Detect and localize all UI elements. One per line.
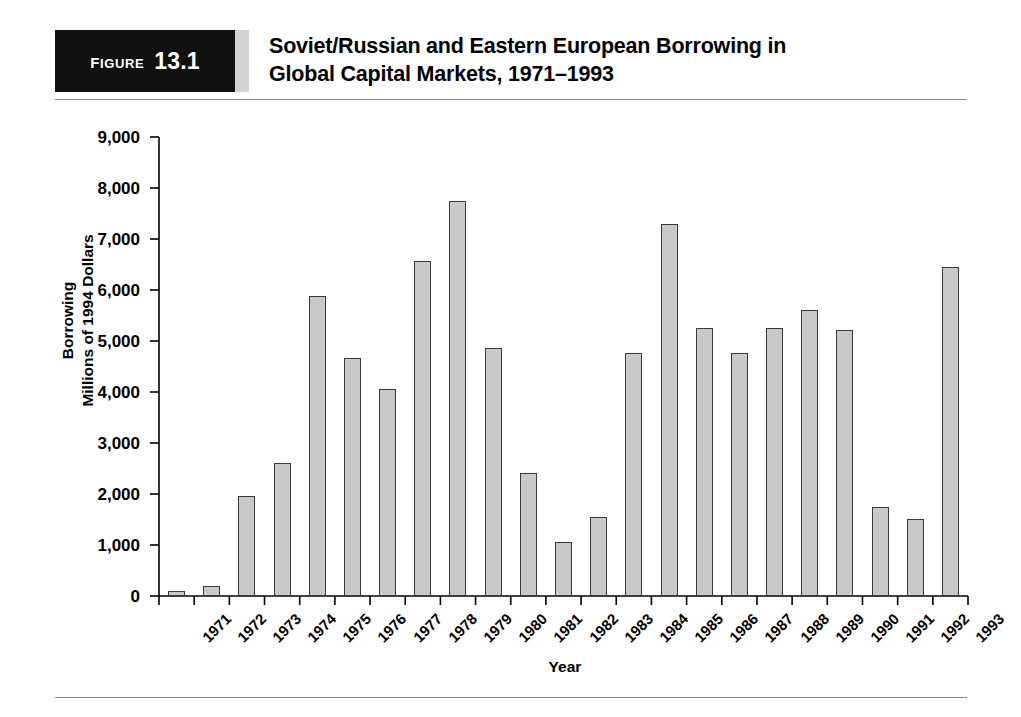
y-tick-label: 5,000 (62, 333, 140, 350)
x-tick-label: 1990 (867, 610, 903, 646)
bar (379, 389, 396, 596)
bar (238, 496, 255, 596)
y-tick-label: 7,000 (62, 231, 140, 248)
figure-page: Figure 13.1 Soviet/Russian and Eastern E… (0, 0, 1021, 717)
x-tick-label: 1991 (902, 610, 938, 646)
bar (661, 224, 678, 596)
x-tick-label: 1976 (374, 610, 410, 646)
bar (309, 296, 326, 596)
axis-lines (0, 0, 1021, 717)
y-tick-label: 2,000 (62, 486, 140, 503)
bar (203, 586, 220, 596)
bar (907, 519, 924, 596)
bar (731, 353, 748, 596)
x-axis-title: Year (160, 658, 970, 676)
x-tick-label: 1988 (796, 610, 832, 646)
bar (590, 517, 607, 596)
x-tick-label: 1987 (761, 610, 797, 646)
bar (414, 261, 431, 596)
bar (696, 328, 713, 596)
x-tick-label: 1984 (656, 610, 692, 646)
bar (766, 328, 783, 596)
bar-chart: Borrowing Millions of 1994 Dollars Year … (0, 0, 1021, 717)
y-tick-label: 0 (62, 588, 140, 605)
x-tick-label: 1973 (269, 610, 305, 646)
bar (555, 542, 572, 596)
y-tick-label: 1,000 (62, 537, 140, 554)
bar (485, 348, 502, 596)
x-tick-label: 1978 (445, 610, 481, 646)
x-tick-label: 1981 (550, 610, 586, 646)
x-tick-label: 1974 (304, 610, 340, 646)
x-tick-label: 1985 (691, 610, 727, 646)
y-tick-label: 6,000 (62, 282, 140, 299)
bar (801, 310, 818, 596)
y-axis-title: Borrowing Millions of 1994 Dollars (58, 190, 99, 450)
bar (836, 330, 853, 596)
x-tick-label: 1975 (339, 610, 375, 646)
bar (168, 591, 185, 596)
x-tick-label: 1993 (972, 610, 1008, 646)
x-tick-label: 1982 (585, 610, 621, 646)
bar (520, 473, 537, 596)
x-tick-label: 1979 (480, 610, 516, 646)
x-tick-label: 1977 (409, 610, 445, 646)
x-tick-label: 1989 (831, 610, 867, 646)
y-tick-label: 4,000 (62, 384, 140, 401)
bar (449, 201, 466, 596)
x-tick-label: 1971 (198, 610, 234, 646)
x-tick-label: 1983 (620, 610, 656, 646)
bar (274, 463, 291, 596)
bar (872, 507, 889, 596)
x-tick-label: 1986 (726, 610, 762, 646)
y-tick-label: 9,000 (62, 129, 140, 146)
bar (344, 358, 361, 596)
x-tick-label: 1972 (234, 610, 270, 646)
bar (625, 353, 642, 596)
bar (942, 267, 959, 596)
y-tick-label: 8,000 (62, 180, 140, 197)
x-tick-label: 1980 (515, 610, 551, 646)
x-tick-label: 1992 (937, 610, 973, 646)
y-tick-label: 3,000 (62, 435, 140, 452)
